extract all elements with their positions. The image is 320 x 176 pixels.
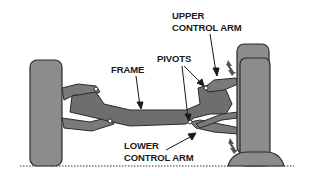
lower-arm-arrowhead-icon <box>188 133 196 140</box>
lower-control-arm-label-line2: CONTROL ARM <box>124 152 194 163</box>
upper-control-arm-label-line2: CONTROL ARM <box>172 22 242 33</box>
upper-motion-arrow-icon <box>226 60 236 76</box>
lower-control-arm-label-line1: LOWER <box>124 140 159 151</box>
upper-arm-leader <box>210 34 216 72</box>
frame-label: FRAME <box>111 64 144 75</box>
pivots-label: PIVOTS <box>157 53 191 64</box>
upper-arm-arrowhead-icon <box>213 68 219 76</box>
right-tire <box>240 58 270 166</box>
upper-control-arm-label-line1: UPPER <box>172 10 204 21</box>
left-tire <box>30 60 62 166</box>
pivot-left-lower <box>108 119 112 123</box>
frame-arrowhead-icon <box>137 102 143 109</box>
right-upper-control-arm <box>204 78 238 92</box>
road-bump <box>228 152 284 166</box>
lower-arm-leader <box>166 136 192 150</box>
pivot-left-upper <box>94 87 98 91</box>
